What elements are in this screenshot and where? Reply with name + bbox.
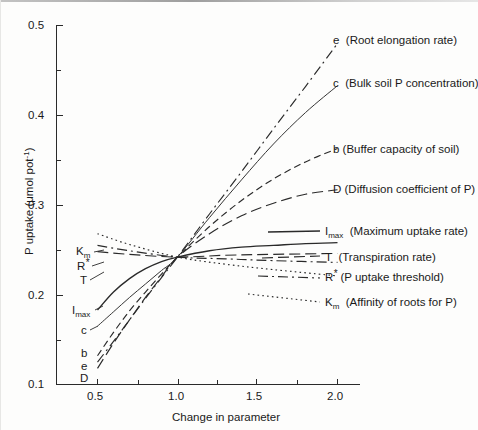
legend-entry-c-symbol: c [333,77,339,89]
left-tag-leader-T [90,272,104,280]
curve-tag-c: c [81,325,87,337]
left-tag-leader-Imax [95,306,103,310]
curve-tag-rstar-symbol: R [77,260,85,272]
legend-entry-t: T (Transpiration rate) [325,252,436,264]
legend-entry-t-symbol: T [325,251,332,263]
curve-tag-km-symbol: K [76,245,84,257]
legend-swatch-Rstar [258,276,320,278]
axis-lines [57,25,361,385]
legend-leader-lines [90,231,320,330]
legend-entry-rstar-text: (P uptake threshold) [340,271,443,283]
curve-tag-km: Km [76,246,90,258]
y-axis-major-ticks [57,26,63,385]
curve-tag-t: T [80,275,87,287]
legend-entry-d: D (Diffusion coefficient of P) [333,184,475,196]
x-axis-title: Change in parameter [172,412,280,424]
legend-entry-b-text: (Buffer capacity of soil) [343,143,460,155]
x-tick-label-1.0: 1.0 [168,391,184,403]
plot-canvas [0,0,478,430]
curve-b [98,148,338,355]
curve-tag-rstar-asterisk: * [86,257,90,268]
x-axis-minor-ticks [138,380,297,385]
curve-tag-b-symbol: b [81,347,87,359]
y-tick-label-0.4: 0.4 [28,110,44,122]
curve-tag-c-symbol: c [81,324,87,336]
legend-entry-imax: Imax (Maximum uptake rate) [325,226,468,238]
curve-tag-t-symbol: T [80,274,87,286]
legend-entry-km-symbol: K [325,296,333,308]
legend-entry-imax-text: (Maximum uptake rate) [350,225,468,237]
legend-entry-rstar-symbol: R [325,271,333,283]
x-tick-label-1.5: 1.5 [246,391,262,403]
legend-swatch-Km [248,294,320,302]
x-tick-label-0.5: 0.5 [87,391,103,403]
curve-tag-d: D [80,373,88,385]
curve-tag-rstar: R* [77,261,89,273]
legend-entry-km-text: (Affinity of roots for P) [346,296,457,308]
legend-swatch-T [262,256,320,258]
y-tick-label-0.5: 0.5 [28,20,44,32]
curve-tag-e-symbol: e [81,360,87,372]
y-axis-title: P uptake (μmol pot-1) [24,147,36,255]
legend-entry-e: e (Root elongation rate) [333,35,457,47]
y-axis-title-exponent: -1 [22,151,31,158]
legend-entry-rstar: R* (P uptake threshold) [325,272,444,284]
legend-entry-t-text: (Transpiration rate) [338,251,435,263]
curve-tag-d-symbol: D [80,372,88,384]
y-axis-title-prefix: P uptake (μmol pot [23,158,35,255]
curve-tag-b: b [81,348,87,360]
curve-tag-e: e [81,361,87,373]
legend-entry-d-symbol: D [333,183,341,195]
y-tick-label-0.1: 0.1 [28,379,44,391]
figure-container: 0.5 0.4 0.3 0.2 0.1 0.5 1.0 1.5 2.0 Chan… [0,0,478,430]
curve-tag-imax: Imax [72,305,90,317]
legend-entry-b: b (Buffer capacity of soil) [333,144,459,156]
data-curves [98,43,338,368]
left-tag-leader-c [90,326,98,330]
legend-entry-c: c (Bulk soil P concentration) [333,78,478,90]
left-tag-leader-Rstar [92,262,104,266]
legend-entry-b-symbol: b [333,143,339,155]
curve-c [98,86,338,327]
legend-entry-imax-sub: max [328,231,343,240]
legend-entry-rstar-asterisk: * [334,268,338,279]
legend-entry-c-text: (Bulk soil P concentration) [345,77,478,89]
legend-entry-e-symbol: e [333,34,339,46]
y-tick-label-0.2: 0.2 [28,290,44,302]
curve-tag-imax-sub: max [75,310,90,319]
legend-entry-d-text: (Diffusion coefficient of P) [345,183,476,195]
legend-swatch-Imax [268,231,320,232]
legend-entry-km: Km (Affinity of roots for P) [325,297,457,309]
legend-entry-e-text: (Root elongation rate) [346,34,457,46]
legend-entry-km-sub: m [333,302,340,311]
x-tick-label-2.0: 2.0 [327,391,343,403]
curve-D [98,190,338,369]
curve-Rstar [98,245,338,262]
